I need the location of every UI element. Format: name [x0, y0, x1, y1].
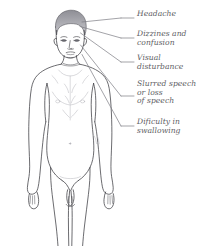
- callout-label-dizziness-confusion: Dizzines and confusion: [137, 30, 201, 47]
- callout-label-difficulty-swallowing: Dificulty in swallowing: [137, 118, 201, 135]
- callout-label-slurred-speech: Slurred speech or loss of speech: [137, 80, 201, 106]
- callout-labels: Headache Dizzines and confusion Visual d…: [0, 0, 202, 246]
- callout-label-headache: Headache: [137, 10, 201, 19]
- symptom-diagram: Headache Dizzines and confusion Visual d…: [0, 0, 202, 246]
- callout-label-visual-disturbance: Visual disturbance: [137, 54, 201, 71]
